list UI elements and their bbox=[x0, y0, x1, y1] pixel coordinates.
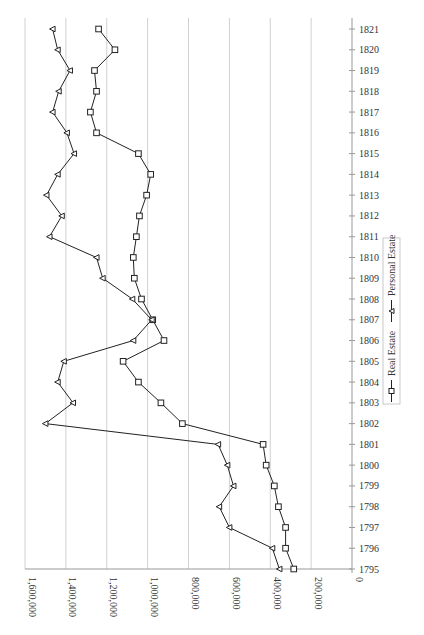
year-tick-label: 1801 bbox=[359, 439, 379, 450]
year-tick-label: 1798 bbox=[359, 501, 379, 512]
year-tick-label: 1809 bbox=[359, 273, 379, 284]
triangle-marker-icon bbox=[56, 89, 62, 95]
triangle-marker-icon bbox=[50, 26, 56, 32]
estate-line-chart: 0200,000400,000600,000800,0001,000,0001,… bbox=[0, 0, 424, 635]
legend: Real Estate Personal Estate bbox=[383, 234, 400, 404]
series-real-estate bbox=[88, 26, 297, 572]
value-tick-label: 1,200,000 bbox=[108, 577, 119, 617]
year-tick-label: 1814 bbox=[359, 169, 379, 180]
square-marker-icon bbox=[260, 442, 266, 448]
year-tick-label: 1797 bbox=[359, 522, 379, 533]
square-marker-icon bbox=[180, 421, 186, 427]
square-marker-icon bbox=[276, 504, 282, 510]
triangle-marker-icon bbox=[130, 338, 136, 344]
square-marker-icon bbox=[158, 400, 164, 406]
square-marker-icon bbox=[134, 234, 140, 240]
year-tick-label: 1800 bbox=[359, 460, 379, 471]
year-tick-label: 1816 bbox=[359, 127, 379, 138]
year-tick-label: 1807 bbox=[359, 314, 379, 325]
triangle-marker-icon bbox=[47, 234, 53, 240]
triangle-marker-icon bbox=[71, 151, 77, 157]
year-tick-label: 1821 bbox=[359, 24, 379, 35]
square-marker-icon bbox=[92, 68, 98, 74]
square-marker-icon bbox=[136, 379, 142, 385]
value-tick-label: 400,000 bbox=[272, 577, 283, 610]
triangle-marker-icon bbox=[55, 47, 61, 53]
triangle-marker-icon bbox=[216, 504, 222, 510]
value-tick-label: 1,400,000 bbox=[67, 577, 78, 617]
year-tick-label: 1796 bbox=[359, 543, 379, 554]
triangle-marker-icon bbox=[64, 130, 70, 136]
square-marker-icon bbox=[144, 192, 150, 198]
square-marker-icon bbox=[131, 255, 137, 261]
value-tick-label: 1,000,000 bbox=[149, 577, 160, 617]
square-marker-icon bbox=[272, 483, 278, 489]
square-marker-icon bbox=[136, 151, 142, 157]
year-tick-label: 1813 bbox=[359, 190, 379, 201]
year-tick-label: 1805 bbox=[359, 356, 379, 367]
year-tick-label: 1810 bbox=[359, 252, 379, 263]
year-tick-label: 1795 bbox=[359, 564, 379, 575]
triangle-marker-icon bbox=[100, 275, 106, 281]
value-axis-tick-labels: 0200,000400,000600,000800,0001,000,0001,… bbox=[27, 577, 365, 617]
triangle-marker-icon bbox=[55, 172, 61, 178]
triangle-marker-icon bbox=[42, 421, 48, 427]
year-tick-label: 1803 bbox=[359, 397, 379, 408]
year-tick-label: 1808 bbox=[359, 294, 379, 305]
year-tick-label: 1817 bbox=[359, 107, 379, 118]
triangle-marker-icon bbox=[94, 255, 100, 261]
triangle-marker-icon bbox=[61, 359, 67, 365]
year-tick-label: 1806 bbox=[359, 335, 379, 346]
year-tick-label: 1811 bbox=[359, 231, 379, 242]
square-marker-icon bbox=[263, 462, 269, 468]
square-marker-icon bbox=[161, 338, 167, 344]
square-marker-icon bbox=[283, 545, 289, 551]
square-marker-icon bbox=[139, 296, 145, 302]
triangle-marker-icon bbox=[59, 213, 65, 219]
gridlines bbox=[25, 18, 311, 569]
series-line bbox=[45, 29, 279, 569]
square-marker-icon bbox=[96, 26, 102, 32]
year-tick-label: 1802 bbox=[359, 418, 379, 429]
triangle-marker-icon bbox=[43, 192, 49, 198]
triangle-marker-icon bbox=[50, 109, 56, 115]
legend-label-real-estate: Real Estate bbox=[386, 330, 397, 376]
square-marker-icon bbox=[94, 89, 100, 95]
triangle-marker-icon bbox=[55, 379, 61, 385]
square-marker-icon bbox=[283, 525, 289, 531]
year-tick-label: 1799 bbox=[359, 480, 379, 491]
year-tick-label: 1818 bbox=[359, 86, 379, 97]
year-tick-label: 1815 bbox=[359, 148, 379, 159]
square-marker-icon bbox=[112, 47, 118, 53]
year-axis-tick-labels: 1795179617971798179918001801180218031804… bbox=[359, 24, 379, 575]
value-tick-label: 0 bbox=[354, 577, 365, 582]
value-tick-label: 600,000 bbox=[231, 577, 242, 610]
square-marker-icon bbox=[94, 130, 100, 136]
triangle-marker-icon bbox=[224, 462, 230, 468]
value-tick-label: 800,000 bbox=[190, 577, 201, 610]
series-personal-estate bbox=[42, 26, 282, 572]
legend-label-personal-estate: Personal Estate bbox=[386, 234, 397, 296]
square-marker-icon bbox=[88, 109, 94, 115]
axes bbox=[25, 18, 355, 573]
series-layer bbox=[42, 26, 296, 572]
square-marker-icon bbox=[137, 213, 143, 219]
triangle-marker-icon bbox=[276, 566, 282, 572]
year-tick-label: 1820 bbox=[359, 44, 379, 55]
square-marker-icon bbox=[120, 359, 126, 365]
value-tick-label: 1,600,000 bbox=[27, 577, 38, 617]
square-marker-icon bbox=[148, 172, 154, 178]
year-tick-label: 1804 bbox=[359, 377, 379, 388]
year-tick-label: 1812 bbox=[359, 210, 379, 221]
series-line bbox=[90, 29, 293, 569]
value-tick-label: 200,000 bbox=[313, 577, 324, 610]
triangle-marker-icon bbox=[67, 68, 73, 74]
triangle-marker-icon bbox=[215, 442, 221, 448]
square-marker-icon bbox=[132, 275, 138, 281]
square-marker-icon bbox=[389, 389, 394, 394]
triangle-marker-icon bbox=[230, 483, 236, 489]
triangle-marker-icon bbox=[226, 525, 232, 531]
square-marker-icon bbox=[291, 566, 297, 572]
year-tick-label: 1819 bbox=[359, 65, 379, 76]
